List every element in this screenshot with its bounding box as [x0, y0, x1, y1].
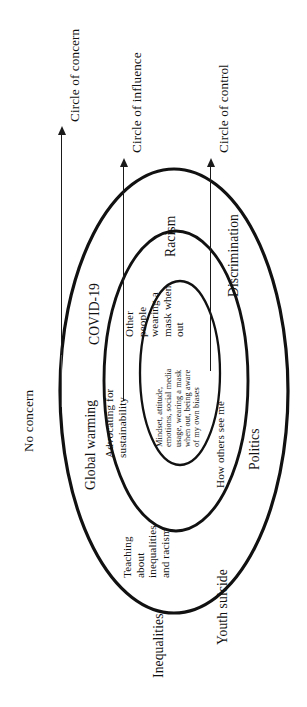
label-circle-of-influence: Circle of influence: [130, 52, 144, 153]
label-politics: Politics: [248, 428, 263, 470]
label-circle-of-control-items: Mindset, attitude, emotions, social medi…: [155, 369, 201, 447]
diagram-canvas: Circle of concern Circle of influence Ci…: [0, 0, 307, 707]
other-people-line-5: out: [173, 285, 186, 337]
label-discrimination: Discrimination: [227, 214, 242, 297]
teaching-line-3: inequalities: [146, 525, 159, 578]
concentric-ellipses: [0, 0, 307, 707]
control-item-line-1: Mindset, attitude,: [155, 369, 164, 447]
teaching-line-2: about: [134, 525, 147, 578]
label-inequalities: Inequalities: [152, 613, 167, 678]
label-circle-of-concern: Circle of concern: [68, 29, 82, 122]
arrow-head-circle-of-concern: [58, 126, 66, 135]
advocating-line-1: Advocating for: [103, 389, 116, 458]
other-people-line-3: wearing a: [148, 285, 161, 337]
other-people-line-1: Other: [123, 285, 136, 337]
label-youth-suicide: Youth suicide: [216, 569, 231, 645]
teaching-line-4: and racism: [159, 525, 172, 578]
arrow-head-circle-of-control: [207, 158, 215, 167]
teaching-line-1: Teaching: [121, 525, 134, 578]
arrow-line-circle-of-influence: [123, 163, 124, 401]
label-racism: Racism: [164, 216, 179, 257]
label-no-concern: No concern: [22, 390, 36, 452]
control-item-line-5: of my own biases: [192, 369, 201, 447]
label-circle-of-control: Circle of control: [217, 64, 231, 153]
control-item-line-3: usage, wearing a mask: [174, 369, 183, 447]
control-item-line-4: when out, being aware: [183, 369, 192, 447]
control-item-line-2: emotions, social media: [164, 369, 173, 447]
no-concern-tick-line: [61, 355, 62, 407]
label-global-warming: Global warming: [84, 400, 99, 490]
label-other-people-wearing-a-mask: Other people wearing a mask when out: [123, 285, 186, 337]
arrow-line-circle-of-control: [210, 163, 211, 371]
label-covid-19: COVID-19: [88, 283, 103, 345]
arrow-head-circle-of-influence: [120, 158, 128, 167]
label-advocating-for-sustainability: Advocating for sustainability: [103, 389, 128, 458]
advocating-line-2: sustainability: [116, 389, 129, 458]
other-people-line-2: people: [136, 285, 149, 337]
label-teaching-about-inequalities-and-racism: Teaching about inequalities and racism: [121, 525, 171, 578]
label-how-others-see-me: How others see me: [214, 401, 226, 488]
other-people-line-4: mask when: [161, 285, 174, 337]
